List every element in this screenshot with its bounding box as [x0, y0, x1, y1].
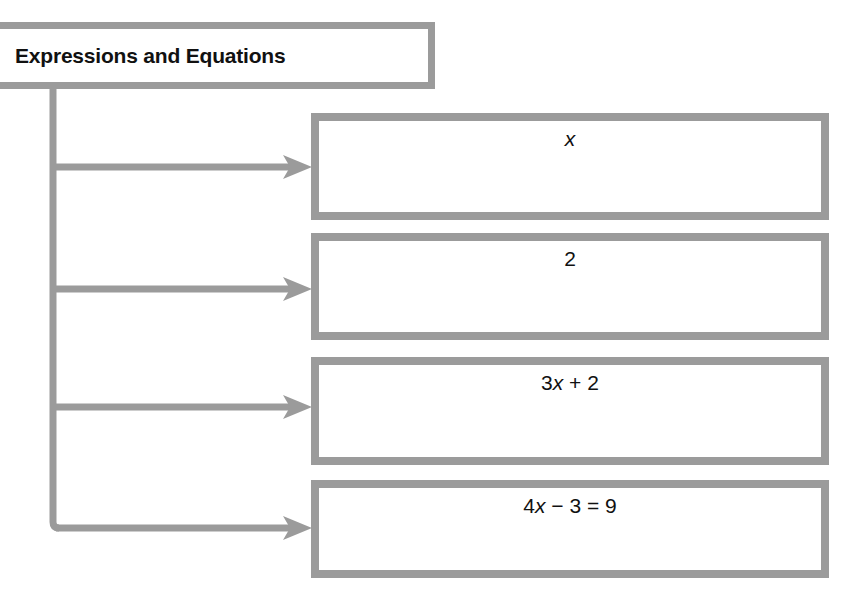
- arrowhead-2: [283, 277, 312, 301]
- arrowhead-1: [283, 155, 312, 179]
- node-label-1: x: [319, 127, 821, 150]
- root-node-box: Expressions and Equations: [0, 22, 435, 89]
- trunk-line: [53, 89, 59, 528]
- arrowhead-3: [283, 395, 312, 419]
- page-title: Expressions and Equations: [15, 44, 285, 68]
- arrowhead-4: [283, 516, 312, 540]
- node-box-1: x: [311, 113, 829, 220]
- node-box-4: 4x − 3 = 9: [311, 480, 829, 578]
- node-box-2: 2: [311, 233, 829, 340]
- node-label-4: 4x − 3 = 9: [319, 494, 821, 517]
- node-box-3: 3x + 2: [311, 357, 829, 465]
- node-label-3: 3x + 2: [319, 371, 821, 394]
- node-label-2: 2: [319, 247, 821, 270]
- diagram-canvas: Expressions and Equations x 2 3x + 2 4x …: [0, 0, 849, 598]
